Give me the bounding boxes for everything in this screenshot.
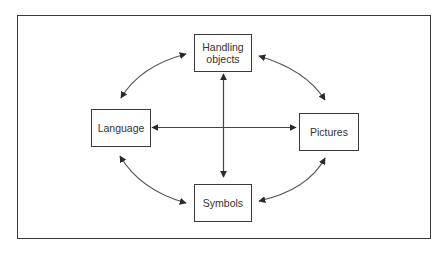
arrow-handling-pictures [259, 56, 325, 100]
node-symbols: Symbols [194, 184, 252, 222]
node-label-line1: Handling [202, 41, 243, 54]
node-language: Language [91, 109, 151, 147]
arrow-language-symbols [120, 156, 186, 203]
arrow-pictures-symbols [259, 158, 325, 201]
node-label: Pictures [310, 126, 348, 139]
node-label-line2: objects [202, 53, 243, 66]
node-pictures: Pictures [299, 113, 359, 151]
node-handling-objects: Handling objects [194, 34, 252, 72]
node-label: Symbols [203, 197, 243, 210]
node-label: Language [98, 122, 145, 135]
arrow-handling-language [121, 54, 186, 98]
